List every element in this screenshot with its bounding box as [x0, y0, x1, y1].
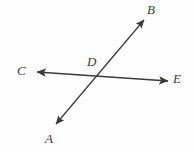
geometry-figure: A B C D E — [0, 0, 193, 152]
point-label-a: A — [45, 132, 53, 145]
point-label-d: D — [87, 55, 96, 68]
point-label-e: E — [173, 72, 181, 85]
point-label-b: B — [147, 3, 155, 16]
line-segment-ce — [37, 72, 168, 81]
point-label-c: C — [17, 64, 26, 77]
figure-canvas — [0, 0, 193, 152]
line-segment-ab — [56, 20, 144, 124]
